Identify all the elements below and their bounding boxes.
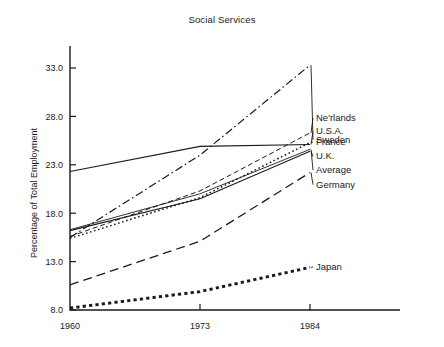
series-label-u-s-a: U.S.A. <box>316 125 343 136</box>
series-label-average: Average <box>316 164 351 175</box>
y-tick-label: 18.0 <box>45 209 63 219</box>
x-tick-label: 1984 <box>300 321 320 331</box>
series-line-japan <box>70 267 310 308</box>
x-axis-ticks: 196019731984 <box>60 304 320 331</box>
y-tick-label: 23.0 <box>45 160 63 170</box>
y-axis-ticks: 8.013.018.023.028.033.0 <box>45 63 76 315</box>
series-label-ne-rlands: Ne'rlands <box>316 112 356 123</box>
series-line-u-s-a <box>70 144 310 171</box>
y-tick-label: 13.0 <box>45 257 63 267</box>
series-label-japan: Japan <box>316 261 342 272</box>
label-leader-layer <box>311 65 313 267</box>
x-tick-label: 1960 <box>60 321 80 331</box>
y-tick-label: 28.0 <box>45 112 63 122</box>
series-line-sweden <box>70 65 310 237</box>
y-tick-label: 8.0 <box>50 305 63 315</box>
series-label-germany: Germany <box>316 179 355 190</box>
series-label-layer: SwedenNe'rlandsU.S.A.FranceU.K.AverageGe… <box>316 112 356 272</box>
data-series-layer <box>70 65 310 308</box>
social-services-line-chart: Social Services Percentage of Total Empl… <box>0 0 444 347</box>
series-line-germany <box>70 173 310 285</box>
series-label-leader <box>311 173 313 185</box>
plot-area: 8.013.018.023.028.033.0 196019731984 Swe… <box>0 0 444 347</box>
y-tick-label: 33.0 <box>45 63 63 73</box>
x-tick-label: 1973 <box>190 321 210 331</box>
series-label-france: France <box>316 136 346 147</box>
series-line-france <box>70 143 310 239</box>
series-label-u-k: U.K. <box>316 150 334 161</box>
series-label-leader <box>311 149 313 170</box>
series-line-u-k <box>70 151 310 230</box>
